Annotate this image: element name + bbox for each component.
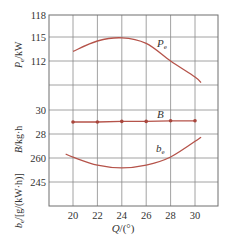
curves: [66, 38, 201, 168]
x-tick-label: 26: [141, 210, 152, 221]
y-tick-label: 260: [30, 153, 46, 164]
x-axis-label: Q/(°): [112, 222, 135, 235]
curve-be: [66, 137, 201, 168]
data-point-marker: [169, 119, 173, 123]
x-tick-label: 24: [117, 210, 128, 221]
y-tick-label: 245: [30, 177, 46, 188]
x-tick-label: 30: [190, 210, 201, 221]
curve-b: [73, 121, 195, 122]
data-point-marker: [144, 120, 148, 124]
curve-pe: [73, 38, 201, 83]
y-tick-label: 28: [36, 129, 47, 140]
chart: 1181151123028260245202224262830 Pe/kW B/…: [0, 0, 227, 245]
tick-labels: 1181151123028260245202224262830: [30, 10, 200, 221]
grid: [49, 15, 218, 206]
y-tick-label: 115: [31, 32, 46, 43]
curve-label-be: be: [156, 142, 165, 156]
x-tick-label: 20: [68, 210, 79, 221]
x-tick-label: 22: [92, 210, 103, 221]
y-tick-label: 112: [31, 56, 46, 67]
data-point-marker: [96, 120, 100, 124]
y-tick-label: 30: [36, 105, 47, 116]
y-tick-label: 118: [31, 10, 46, 21]
curve-label-b: B: [157, 108, 164, 120]
b-axis-label: B/kg·h: [13, 126, 24, 153]
data-point-marker: [71, 120, 75, 124]
data-point-marker: [120, 120, 124, 124]
be-axis-label: be/[g/(kW·h)]: [13, 173, 26, 228]
x-tick-label: 28: [165, 210, 176, 221]
pe-axis-label: Pe/kW: [13, 41, 26, 69]
data-point-marker: [193, 119, 197, 123]
curve-label-pe: Pe: [156, 37, 167, 51]
